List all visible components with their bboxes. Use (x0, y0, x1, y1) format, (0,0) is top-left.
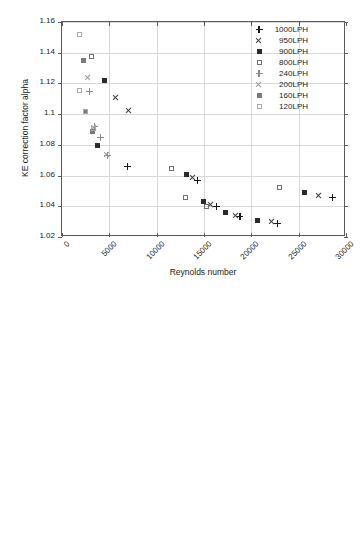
y-tick-right (344, 176, 348, 177)
legend-marker-950lph (248, 35, 270, 46)
legend-label: 160LPH (279, 90, 308, 101)
data-point-800lph (183, 195, 188, 200)
legend-marker-800lph (248, 57, 270, 68)
data-point-120lph (83, 109, 88, 114)
y-tick-label: 1.06 (21, 171, 55, 179)
legend-marker-160lph (248, 90, 270, 101)
data-point-900lph (302, 190, 307, 195)
x-tick-top (204, 22, 205, 26)
legend-row: 160LPH (248, 90, 334, 101)
gridline-horizontal (62, 176, 344, 177)
x-tick (204, 233, 205, 237)
legend-label: 200LPH (279, 79, 308, 90)
legend-marker-1000lph (248, 24, 270, 35)
x-tick-top (62, 22, 63, 26)
legend-marker-120lph (248, 101, 270, 112)
legend-label: 900LPH (279, 46, 308, 57)
gridline-horizontal (62, 22, 344, 23)
data-point-240lph (97, 134, 104, 141)
data-point-1000lph (329, 194, 336, 201)
y-tick-right (344, 237, 348, 238)
data-point-120lph (77, 88, 82, 93)
y-tick-label: 1.02 (21, 232, 55, 240)
data-point-240lph (86, 88, 93, 95)
marker-glyph (257, 104, 262, 109)
data-point-800lph (169, 166, 174, 171)
data-point-800lph (204, 204, 209, 209)
data-point-800lph (277, 185, 282, 190)
y-tick (58, 53, 62, 54)
x-tick (109, 233, 110, 237)
y-tick (58, 176, 62, 177)
x-tick-top (109, 22, 110, 26)
data-point-950lph (112, 94, 119, 101)
data-point-200lph (84, 74, 91, 81)
y-tick-label: 1.16 (21, 17, 55, 25)
legend-row: 1000LPH (248, 24, 334, 35)
y-tick-label: 1.04 (21, 201, 55, 209)
data-point-950lph (189, 174, 196, 181)
legend-label: 240LPH (279, 68, 308, 79)
y-tick-label: 1.1 (21, 109, 55, 117)
figure-page: KE correction factor alpha Reynolds numb… (0, 0, 364, 555)
legend-row: 120LPH (248, 101, 334, 112)
legend-label: 120LPH (279, 101, 308, 112)
data-point-950lph (125, 107, 132, 114)
y-tick-right (344, 83, 348, 84)
marker-glyph (256, 70, 263, 77)
legend-row: 800LPH (248, 57, 334, 68)
y-tick (58, 145, 62, 146)
y-tick-right (344, 145, 348, 146)
x-tick (251, 233, 252, 237)
y-tick-right (344, 53, 348, 54)
y-axis-title-1: KE correction factor alpha (20, 78, 30, 178)
legend-marker-900lph (248, 46, 270, 57)
data-point-200lph (103, 151, 110, 158)
gridline-vertical (157, 22, 158, 235)
y-tick (58, 206, 62, 207)
x-tick (299, 233, 300, 237)
data-point-120lph (91, 126, 96, 131)
data-point-900lph (184, 172, 189, 177)
x-tick (346, 233, 347, 237)
data-point-900lph (255, 218, 260, 223)
data-point-900lph (102, 78, 107, 83)
chart-figure-1: KE correction factor alpha Reynolds numb… (0, 0, 364, 277)
data-point-1000lph (124, 163, 131, 170)
data-point-900lph (223, 210, 228, 215)
marker-glyph (257, 93, 262, 98)
marker-glyph (256, 81, 263, 88)
y-tick-right (344, 206, 348, 207)
gridline-horizontal (62, 114, 344, 115)
data-point-120lph (77, 32, 82, 37)
chart-figure-2: KE correction factor alpha Reynolds numb… (0, 277, 364, 555)
y-tick-right (344, 114, 348, 115)
gridline-vertical (109, 22, 110, 235)
data-point-950lph (232, 212, 239, 219)
marker-glyph (256, 26, 263, 33)
x-tick (62, 233, 63, 237)
marker-glyph (257, 60, 262, 65)
legend-1: 1000LPH950LPH900LPH800LPH240LPH200LPH160… (248, 24, 334, 112)
legend-label: 800LPH (279, 57, 308, 68)
data-point-950lph (268, 218, 275, 225)
legend-label: 1000LPH (275, 24, 308, 35)
y-tick (58, 237, 62, 238)
data-point-800lph (89, 54, 94, 59)
x-tick-top (157, 22, 158, 26)
data-point-160lph (81, 58, 86, 63)
data-point-950lph (315, 192, 322, 199)
x-tick-top (346, 22, 347, 26)
x-tick (157, 233, 158, 237)
y-tick-label: 1.14 (21, 48, 55, 56)
legend-row: 200LPH (248, 79, 334, 90)
gridline-horizontal (62, 206, 344, 207)
legend-label: 950LPH (279, 35, 308, 46)
y-tick-label: 1.12 (21, 78, 55, 86)
gridline-horizontal (62, 145, 344, 146)
legend-row: 240LPH (248, 68, 334, 79)
y-tick (58, 83, 62, 84)
marker-glyph (256, 37, 263, 44)
legend-row: 950LPH (248, 35, 334, 46)
data-point-900lph (95, 143, 100, 148)
